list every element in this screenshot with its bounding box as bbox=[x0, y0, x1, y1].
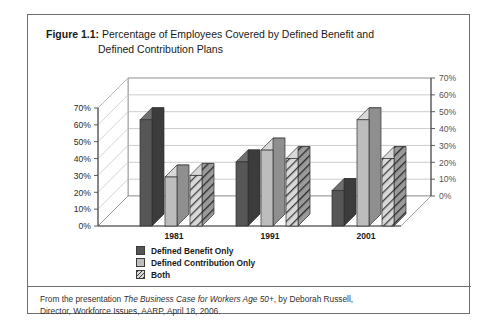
svg-text:60%: 60% bbox=[74, 120, 92, 130]
svg-text:2001: 2001 bbox=[356, 231, 375, 241]
svg-text:0%: 0% bbox=[79, 221, 92, 231]
legend-swatch-icon-defined-contribution-only bbox=[136, 258, 145, 267]
legend-label-defined-benefit-only: Defined Benefit Only bbox=[151, 246, 233, 256]
svg-text:50%: 50% bbox=[74, 137, 92, 147]
svg-text:60%: 60% bbox=[439, 90, 457, 100]
chart-category-labels: 1981 1991 2001 bbox=[164, 231, 375, 241]
figure-container: Figure 1.1: Percentage of Employees Cove… bbox=[27, 14, 470, 314]
figure-title-text-1: Percentage of Employees Covered by Defin… bbox=[102, 28, 374, 40]
source-note-prefix: From the presentation bbox=[40, 294, 123, 304]
source-note-suffix: , by Deborah Russell, bbox=[274, 294, 353, 304]
svg-text:30%: 30% bbox=[74, 171, 92, 181]
legend-swatch-icon-defined-benefit-only bbox=[136, 246, 145, 255]
svg-text:40%: 40% bbox=[74, 154, 92, 164]
source-note-divider bbox=[28, 286, 471, 287]
figure-label: Figure 1.1: bbox=[46, 28, 99, 40]
bar-2001-defined-contribution-only bbox=[357, 108, 381, 226]
figure-title-block: Figure 1.1: Percentage of Employees Cove… bbox=[46, 27, 446, 57]
legend-item-defined-benefit-only[interactable]: Defined Benefit Only bbox=[136, 245, 255, 256]
svg-text:10%: 10% bbox=[74, 204, 92, 214]
bar-1991-defined-contribution-only bbox=[261, 138, 285, 226]
figure-title-line-1: Figure 1.1: Percentage of Employees Cove… bbox=[46, 27, 446, 42]
chart-plot-area: 70% 60% 50% 40% 30% 20% 10% 0% bbox=[28, 63, 471, 243]
chart-right-tick-labels: 70% 60% 50% 40% 30% 20% 10% 0% bbox=[439, 73, 457, 201]
svg-text:50%: 50% bbox=[439, 107, 457, 117]
legend-item-defined-contribution-only[interactable]: Defined Contribution Only bbox=[136, 257, 255, 268]
svg-text:20%: 20% bbox=[74, 188, 92, 198]
svg-text:1991: 1991 bbox=[260, 231, 279, 241]
chart-legend: Defined Benefit Only Defined Contributio… bbox=[136, 245, 255, 281]
source-note-line-2: Director, Workforce Issues, AARP, April … bbox=[40, 306, 220, 316]
svg-text:40%: 40% bbox=[439, 124, 457, 134]
svg-text:0%: 0% bbox=[439, 191, 452, 201]
legend-swatch-icon-both bbox=[136, 270, 145, 279]
chart-right-ticks bbox=[431, 78, 435, 196]
svg-text:10%: 10% bbox=[439, 174, 457, 184]
legend-label-defined-contribution-only: Defined Contribution Only bbox=[151, 258, 255, 268]
source-note-title: The Business Case for Workers Age 50+ bbox=[123, 294, 273, 304]
svg-text:1981: 1981 bbox=[164, 231, 183, 241]
legend-item-both[interactable]: Both bbox=[136, 269, 255, 280]
bar-1981-defined-contribution-only bbox=[165, 165, 189, 226]
bar-1991-both bbox=[286, 147, 310, 226]
svg-text:20%: 20% bbox=[439, 158, 457, 168]
svg-text:70%: 70% bbox=[74, 103, 92, 113]
legend-label-both: Both bbox=[151, 270, 170, 280]
svg-text:30%: 30% bbox=[439, 141, 457, 151]
bar-2001-both bbox=[382, 147, 406, 226]
chart-left-tick-labels: 70% 60% 50% 40% 30% 20% 10% 0% bbox=[74, 103, 92, 231]
svg-text:70%: 70% bbox=[439, 73, 457, 83]
source-note: From the presentation The Business Case … bbox=[40, 293, 455, 317]
figure-title-line-2: Defined Contribution Plans bbox=[46, 42, 446, 57]
bar-chart-svg: 70% 60% 50% 40% 30% 20% 10% 0% bbox=[28, 63, 471, 243]
chart-left-ticks bbox=[94, 108, 98, 226]
bar-1981-defined-benefit-only bbox=[140, 108, 164, 226]
bar-1981-both bbox=[190, 163, 214, 226]
bar-1991-defined-benefit-only bbox=[236, 150, 260, 226]
